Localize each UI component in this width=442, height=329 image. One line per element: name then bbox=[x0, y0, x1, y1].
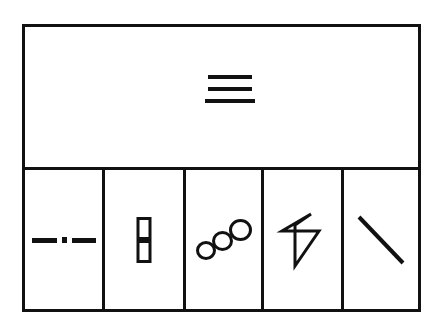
rectangle-top bbox=[137, 217, 152, 240]
dash-dot-dash-icon bbox=[32, 236, 96, 244]
bottom-row bbox=[25, 170, 418, 309]
three-overlapping-circles-icon bbox=[196, 218, 252, 262]
diagonal-line-svg bbox=[357, 215, 405, 265]
diagonal-line-stroke bbox=[359, 217, 403, 263]
figure-canvas bbox=[0, 0, 442, 329]
cell-2 bbox=[105, 170, 186, 309]
hamburger-bar-1 bbox=[208, 75, 252, 79]
cell-5 bbox=[344, 170, 418, 309]
diagonal-line-icon bbox=[357, 215, 405, 265]
dash-segment-right bbox=[72, 238, 96, 243]
zigzag-arrow-icon bbox=[281, 213, 325, 267]
circle-3 bbox=[229, 219, 252, 241]
figure-frame bbox=[22, 24, 421, 312]
cell-4 bbox=[264, 170, 344, 309]
dash-segment-left bbox=[32, 238, 57, 243]
zigzag-arrow-path bbox=[282, 214, 319, 266]
dot-segment-middle bbox=[62, 237, 67, 243]
cell-3 bbox=[186, 170, 264, 309]
hamburger-icon bbox=[205, 75, 255, 105]
zigzag-arrow-svg bbox=[281, 213, 325, 267]
hamburger-bar-3 bbox=[205, 99, 255, 103]
cell-1 bbox=[25, 170, 105, 309]
stacked-rectangles-icon bbox=[137, 217, 152, 263]
rectangle-bottom bbox=[137, 240, 152, 263]
hamburger-bar-2 bbox=[208, 87, 252, 91]
top-panel bbox=[25, 27, 418, 170]
